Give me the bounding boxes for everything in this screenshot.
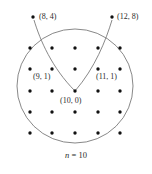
lattice-dot-r4-c0: [28, 131, 31, 134]
lattice-dot-r4-c2: [73, 131, 76, 134]
lattice-dot-r2-c1: [50, 89, 53, 92]
lattice-dot-r1-c4: [118, 67, 121, 70]
lattice-dot-r3-c0: [28, 110, 31, 113]
lattice-dot-r0-c1: [50, 46, 53, 49]
lattice-dot-r3-c4: [118, 110, 121, 113]
lattice-dot-r2-c3: [96, 89, 99, 92]
lattice-dot-r1-c2: [73, 67, 76, 70]
point-label-10-0: (10, 0): [60, 96, 81, 105]
lattice-dot-r3-c1: [50, 110, 53, 113]
boundary-circle: [17, 29, 133, 143]
lattice-dot-r0-c2: [73, 46, 76, 49]
point-12-8-marker: [110, 15, 113, 18]
lattice-dot-r0-c0: [28, 46, 31, 49]
lattice-dot-grid: [28, 46, 121, 134]
figure-canvas: [0, 0, 152, 174]
lattice-dot-r4-c1: [50, 131, 53, 134]
lattice-dot-r1-c0: [28, 67, 31, 70]
caption-relation: = 10: [69, 150, 87, 160]
lattice-dot-r1-c1: [50, 67, 53, 70]
figure-caption: n = 10: [0, 150, 152, 160]
lattice-dot-r4-c4: [118, 131, 121, 134]
lattice-dot-r3-c2: [73, 110, 76, 113]
lattice-circle-figure: (8, 4) (12, 8) (9, 1) (11, 1) (10, 0) n …: [0, 0, 152, 174]
point-label-9-1: (9, 1): [33, 72, 50, 81]
lattice-dot-r4-c3: [96, 131, 99, 134]
point-label-12-8: (12, 8): [117, 12, 138, 21]
lattice-dot-r2-c2: [73, 89, 76, 92]
point-label-8-4: (8, 4): [39, 12, 56, 21]
lattice-dot-r3-c3: [96, 110, 99, 113]
lattice-dot-r1-c3: [96, 67, 99, 70]
lattice-dot-r0-c4: [118, 46, 121, 49]
point-label-11-1: (11, 1): [96, 72, 117, 81]
lattice-dot-r2-c0: [28, 89, 31, 92]
lattice-dot-r0-c3: [96, 46, 99, 49]
point-8-4-marker: [31, 15, 34, 18]
lattice-dot-r2-c4: [118, 89, 121, 92]
